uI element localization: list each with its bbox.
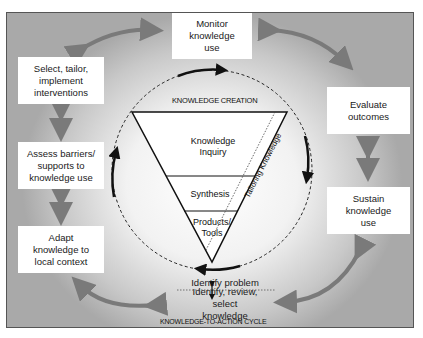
box-monitor-knowledge-use: Monitor knowledge use <box>172 13 252 59</box>
box-assess-barriers: Assess barriers/ supports to knowledge u… <box>18 142 104 189</box>
arrow-select-monitor <box>80 30 152 50</box>
arrow-monitor-evaluate <box>270 30 345 62</box>
knowledge-to-action-title: KNOWLEDGE-TO-ACTION CYCLE <box>160 318 267 325</box>
funnel-synthesis: Synthesis <box>180 189 240 200</box>
arc-arrow-right <box>305 136 308 178</box>
arc-arrow-bottom <box>200 266 240 270</box>
arrow-sustain-identify <box>285 250 360 302</box>
funnel-products-tools: Products/ Tools <box>188 217 236 239</box>
box-evaluate-outcomes: Evaluate outcomes <box>327 87 410 134</box>
arrow-identify-adapt <box>80 285 155 306</box>
box-sustain-knowledge-use: Sustain knowledge use <box>327 187 410 234</box>
box-identify-review-select: Identify, review, select knowledge <box>173 291 277 316</box>
box-adapt-knowledge: Adapt knowledge to local context <box>18 226 104 273</box>
funnel-knowledge-inquiry: Knowledge Inquiry <box>185 136 241 158</box>
box-select-tailor-implement: Select, tailor, implement interventions <box>18 57 104 104</box>
arc-arrow-top <box>178 70 222 76</box>
knowledge-creation-title: KNOWLEDGE CREATION <box>172 96 257 105</box>
